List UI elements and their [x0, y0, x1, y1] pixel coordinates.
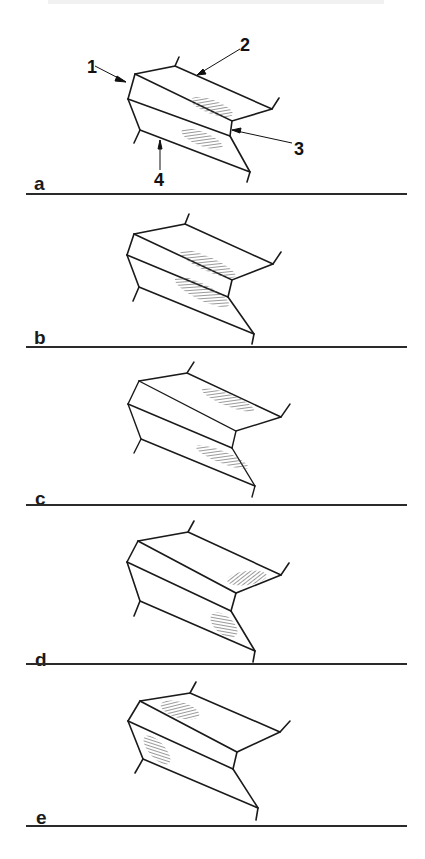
panel-a: 1 2 3 4 a [0, 0, 425, 197]
wedge-drawing-a [0, 0, 425, 197]
hatch-region-lower [172, 272, 233, 313]
hatch-region-upper [226, 568, 268, 587]
hatch-region-upper [189, 93, 235, 121]
wedge-drawing-d [0, 505, 425, 665]
divider-b [26, 346, 407, 348]
panel-label-a: a [34, 174, 45, 193]
hatch-region-upper [200, 384, 256, 416]
hatch-region-lower [179, 124, 225, 153]
hatch-region-lower [139, 731, 175, 768]
divider-e [26, 825, 407, 827]
panel-label-b: b [34, 328, 46, 347]
hatch-region-upper [159, 697, 202, 723]
hatch-region-upper [178, 245, 239, 282]
callout-4: 4 [154, 171, 164, 189]
technical-figure: 1 2 3 4 a b [0, 0, 425, 859]
wedge-drawing-c [0, 349, 425, 505]
hatch-region-lower [194, 441, 250, 473]
panel-b: b [0, 194, 425, 349]
wedge-drawing-e [0, 665, 425, 830]
callout-2: 2 [240, 36, 250, 54]
panel-d: d [0, 505, 425, 665]
wedge-drawing-b [0, 194, 425, 349]
panel-c: c [0, 349, 425, 505]
panel-e: e [0, 665, 425, 830]
callout-1: 1 [87, 58, 97, 76]
callout-3: 3 [294, 140, 304, 158]
